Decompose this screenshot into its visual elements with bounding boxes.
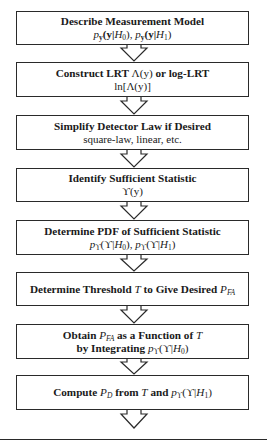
step-title: Describe Measurement Model bbox=[61, 15, 204, 28]
step-title: Construct LRT Λ(y) or log-LRT bbox=[56, 67, 210, 80]
step-compute-pd: Compute PD from T and pϒ(ϒ|H1) bbox=[16, 375, 249, 410]
step-obtain-pfa: Obtain PFA as a Function of T by Integra… bbox=[16, 324, 249, 359]
step-title: Determine PDF of Sufficient Statistic bbox=[44, 225, 221, 238]
step-identify-sufficient-statistic: Identify Sufficient Statistic ϒ(y) bbox=[16, 168, 249, 202]
arrow-down-icon bbox=[121, 410, 147, 428]
step-describe-measurement-model: Describe Measurement Model py(y|H0), py(… bbox=[16, 11, 249, 45]
step-title: Compute PD from T and pϒ(ϒ|H1) bbox=[53, 386, 212, 399]
step-subtitle: py(y|H0), py(y|H1) bbox=[94, 28, 172, 41]
arrow-down-icon bbox=[121, 150, 147, 167]
step-title: Simplify Detector Law if Desired bbox=[54, 120, 211, 133]
arrow-down-icon bbox=[121, 359, 147, 374]
step-construct-lrt: Construct LRT Λ(y) or log-LRT ln[Λ(y)] bbox=[16, 62, 249, 97]
arrow-down-icon bbox=[121, 97, 147, 114]
step-subtitle: ln[Λ(y)] bbox=[114, 80, 151, 93]
step-title: Determine Threshold T to Give Desired PF… bbox=[30, 283, 235, 296]
arrow-down-icon bbox=[121, 44, 147, 61]
step-title: Obtain PFA as a Function of T bbox=[63, 329, 202, 342]
step-determine-pdf: Determine PDF of Sufficient Statistic pϒ… bbox=[16, 220, 249, 255]
arrow-down-icon bbox=[121, 255, 147, 271]
step-title-line2: by Integrating pϒ(ϒ|H0) bbox=[76, 342, 188, 355]
step-determine-threshold: Determine Threshold T to Give Desired PF… bbox=[16, 272, 249, 306]
step-simplify-detector-law: Simplify Detector Law if Desired square-… bbox=[16, 115, 249, 150]
step-subtitle: pϒ(ϒ|H0), pϒ(ϒ|H1) bbox=[90, 238, 176, 251]
arrow-down-icon bbox=[121, 306, 147, 323]
arrow-down-icon bbox=[121, 202, 147, 219]
bottom-divider bbox=[0, 439, 267, 440]
step-subtitle: square-law, linear, etc. bbox=[83, 133, 182, 146]
step-title: Identify Sufficient Statistic bbox=[68, 172, 196, 185]
step-subtitle: ϒ(y) bbox=[122, 185, 143, 198]
